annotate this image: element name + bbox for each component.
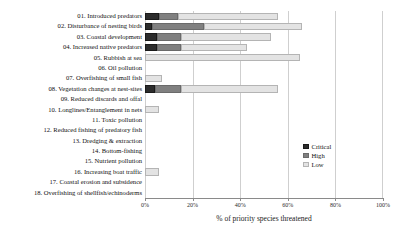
stacked-bar-chart: 01. Introduced predators02. Disturbance … — [0, 0, 397, 240]
legend-swatch-high-icon — [303, 153, 309, 159]
legend-item-low: Low — [303, 160, 331, 169]
bar-row: 04. Increased native predators — [0, 42, 397, 52]
legend-swatch-low-icon — [303, 162, 309, 168]
bar-row: 11. Toxic pollution — [0, 115, 397, 125]
category-label: 09. Reduced discards and offal — [4, 94, 142, 104]
bar-segment-low — [181, 44, 248, 51]
bar-segment-critical — [145, 85, 155, 92]
legend-label-low: Low — [312, 161, 324, 168]
x-tick-0 — [145, 198, 146, 201]
legend-item-high: High — [303, 151, 331, 160]
x-tick-80 — [335, 198, 336, 201]
category-label: 01. Introduced predators — [4, 11, 142, 21]
bar-row: 17. Coastal erosion and subsidence — [0, 177, 397, 187]
x-axis-line — [145, 198, 383, 199]
category-label: 10. Longlines/Entanglement in nets — [4, 105, 142, 115]
stacked-bar — [145, 33, 271, 40]
x-tick-40 — [240, 198, 241, 201]
legend-swatch-critical-icon — [303, 144, 309, 150]
bar-row: 10. Longlines/Entanglement in nets — [0, 105, 397, 115]
bar-row: 07. Overfishing of small fish — [0, 73, 397, 83]
x-tick-100 — [383, 198, 384, 201]
x-tick-60 — [288, 198, 289, 201]
bar-segment-critical — [145, 13, 159, 20]
stacked-bar — [145, 13, 278, 20]
bar-segment-low — [181, 85, 279, 92]
category-label: 02. Disturbance of nesting birds — [4, 21, 142, 31]
bar-row: 18. Overfishing of shellfish/echinoderms — [0, 188, 397, 198]
x-tick-20 — [193, 198, 194, 201]
bar-row: 03. Coastal development — [0, 32, 397, 42]
x-axis-title: % of priority species threatened — [145, 214, 383, 223]
bar-segment-critical — [145, 33, 157, 40]
x-tick-label-20: 20% — [187, 202, 198, 208]
bar-segment-high — [159, 13, 178, 20]
category-label: 15. Nutrient pollution — [4, 156, 142, 166]
stacked-bar — [145, 75, 162, 82]
stacked-bar — [145, 54, 300, 61]
category-label: 16. Increasing boat traffic — [4, 167, 142, 177]
category-label: 11. Toxic pollution — [4, 115, 142, 125]
category-label: 14. Bottom-fishing — [4, 146, 142, 156]
category-label: 08. Vegetation changes at nest-sites — [4, 84, 142, 94]
bar-segment-low — [145, 54, 300, 61]
bar-row: 12. Reduced fishing of predatory fish — [0, 125, 397, 135]
bar-segment-low — [204, 23, 302, 30]
bar-segment-high — [155, 85, 181, 92]
bar-row: 16. Increasing boat traffic — [0, 167, 397, 177]
category-label: 12. Reduced fishing of predatory fish — [4, 125, 142, 135]
stacked-bar — [145, 168, 159, 175]
bar-segment-low — [145, 168, 159, 175]
bar-segment-high — [157, 44, 181, 51]
bar-segment-high — [157, 33, 181, 40]
bar-segment-critical — [145, 44, 157, 51]
bar-row: 13. Dredging & extraction — [0, 136, 397, 146]
bar-row: 01. Introduced predators — [0, 11, 397, 21]
bar-segment-critical — [145, 23, 152, 30]
bar-row: 02. Disturbance of nesting birds — [0, 21, 397, 31]
category-label: 03. Coastal development — [4, 32, 142, 42]
category-label: 05. Rubbish at sea — [4, 53, 142, 63]
bar-row: 15. Nutrient pollution — [0, 156, 397, 166]
bar-row: 05. Rubbish at sea — [0, 53, 397, 63]
x-tick-label-0: 0% — [141, 202, 149, 208]
category-label: 17. Coastal erosion and subsidence — [4, 177, 142, 187]
bar-row: 09. Reduced discards and offal — [0, 94, 397, 104]
x-tick-label-40: 40% — [235, 202, 246, 208]
category-label: 04. Increased native predators — [4, 42, 142, 52]
bar-segment-low — [145, 106, 159, 113]
x-tick-label-100: 100% — [376, 202, 390, 208]
legend-item-critical: Critical — [303, 142, 331, 151]
category-label: 07. Overfishing of small fish — [4, 73, 142, 83]
bar-segment-low — [181, 33, 271, 40]
category-label: 18. Overfishing of shellfish/echinoderms — [4, 188, 142, 198]
stacked-bar — [145, 44, 247, 51]
stacked-bar — [145, 85, 278, 92]
bar-row: 08. Vegetation changes at nest-sites — [0, 84, 397, 94]
bar-segment-high — [152, 23, 204, 30]
category-label: 13. Dredging & extraction — [4, 136, 142, 146]
stacked-bar — [145, 23, 302, 30]
bar-segment-low — [178, 13, 278, 20]
legend-label-high: High — [312, 152, 325, 159]
legend-label-critical: Critical — [312, 143, 332, 150]
bar-row: 06. Oil pollution — [0, 63, 397, 73]
chart-legend: Critical High Low — [303, 142, 331, 169]
x-tick-label-80: 80% — [330, 202, 341, 208]
stacked-bar — [145, 106, 159, 113]
bar-row: 14. Bottom-fishing — [0, 146, 397, 156]
bar-segment-low — [145, 75, 162, 82]
x-tick-label-60: 60% — [282, 202, 293, 208]
category-label: 06. Oil pollution — [4, 63, 142, 73]
